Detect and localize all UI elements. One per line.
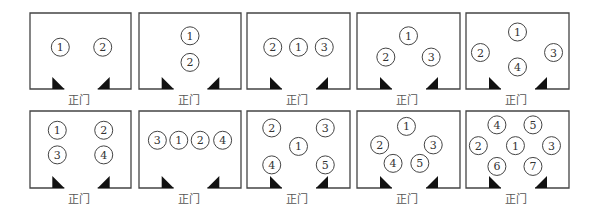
seat-number: 3 xyxy=(322,122,329,135)
seat-3: 3 xyxy=(424,136,442,154)
seat-3: 3 xyxy=(545,44,563,62)
door-left-icon xyxy=(380,176,392,188)
entrance-label: 正门 xyxy=(178,93,200,107)
entrance-label: 正门 xyxy=(286,192,308,206)
seat-5: 5 xyxy=(524,116,542,134)
room-wall xyxy=(30,13,131,89)
door-left-icon xyxy=(270,77,282,89)
seat-number: 4 xyxy=(268,159,275,172)
door-left-icon xyxy=(380,77,392,89)
seating-layout-two-stacked: 正门12 xyxy=(139,13,241,107)
seating-layout-five-x: 正门23145 xyxy=(247,111,350,206)
seat-number: 3 xyxy=(430,139,437,152)
seat-number: 1 xyxy=(175,134,182,147)
seat-3: 3 xyxy=(148,131,166,149)
seat-2: 2 xyxy=(469,137,487,155)
room-wall xyxy=(30,111,131,188)
door-right-icon xyxy=(535,176,547,188)
seat-number: 4 xyxy=(100,149,107,162)
seat-1: 1 xyxy=(509,23,527,41)
seat-2: 2 xyxy=(264,38,282,56)
entrance-label: 正门 xyxy=(396,93,418,107)
seat-3: 3 xyxy=(422,48,440,66)
seat-number: 1 xyxy=(295,140,302,153)
entrance-label: 正门 xyxy=(505,192,527,206)
seat-2: 2 xyxy=(263,119,281,137)
seat-number: 4 xyxy=(390,157,397,170)
seating-layout-four-grid: 正门1234 xyxy=(30,111,131,206)
door-left-icon xyxy=(270,176,282,188)
seat-number: 3 xyxy=(321,41,328,54)
seat-4: 4 xyxy=(384,154,402,172)
seat-1: 1 xyxy=(397,117,415,135)
seat-number: 5 xyxy=(529,119,536,132)
door-left-icon xyxy=(162,176,174,188)
seat-number: 1 xyxy=(57,41,64,54)
door-right-icon xyxy=(98,77,110,89)
seat-number: 5 xyxy=(322,159,329,172)
seat-1: 1 xyxy=(290,38,308,56)
seat-number: 1 xyxy=(187,30,194,43)
door-left-icon xyxy=(52,77,64,89)
room-wall xyxy=(139,13,241,89)
door-right-icon xyxy=(207,77,219,89)
seat-number: 1 xyxy=(512,140,519,153)
seat-4: 4 xyxy=(214,131,232,149)
seat-1: 1 xyxy=(506,137,524,155)
door-right-icon xyxy=(207,176,219,188)
entrance-label: 正门 xyxy=(68,93,90,107)
seat-2: 2 xyxy=(191,131,209,149)
seat-2: 2 xyxy=(181,53,199,71)
entrance-label: 正门 xyxy=(505,93,527,107)
seat-number: 3 xyxy=(428,51,435,64)
door-right-icon xyxy=(426,77,438,89)
seat-1: 1 xyxy=(290,137,308,155)
seat-1: 1 xyxy=(400,27,418,45)
seat-number: 2 xyxy=(376,139,383,152)
seat-number: 6 xyxy=(493,160,500,173)
door-right-icon xyxy=(426,176,438,188)
seat-1: 1 xyxy=(48,121,66,139)
seat-number: 2 xyxy=(382,51,389,64)
seat-4: 4 xyxy=(488,116,506,134)
room-wall xyxy=(139,111,241,188)
door-right-icon xyxy=(535,77,547,89)
seat-3: 3 xyxy=(316,119,334,137)
seat-6: 6 xyxy=(488,157,506,175)
seat-number: 2 xyxy=(268,122,275,135)
seat-number: 3 xyxy=(550,47,557,60)
seat-4: 4 xyxy=(509,58,527,76)
seating-layout-four-row: 正门3124 xyxy=(139,111,241,206)
entrance-label: 正门 xyxy=(396,192,418,206)
seat-number: 2 xyxy=(269,41,276,54)
entrance-label: 正门 xyxy=(286,93,308,107)
seat-number: 3 xyxy=(548,140,555,153)
seat-2: 2 xyxy=(371,136,389,154)
seat-number: 2 xyxy=(477,47,484,60)
seat-1: 1 xyxy=(170,131,188,149)
seat-3: 3 xyxy=(542,137,560,155)
seat-number: 5 xyxy=(416,157,423,170)
seating-layout-seven-hex: 正门4521367 xyxy=(466,111,569,206)
seat-number: 7 xyxy=(529,160,536,173)
seat-number: 1 xyxy=(295,41,302,54)
seat-number: 2 xyxy=(187,56,194,69)
door-right-icon xyxy=(316,77,328,89)
door-left-icon xyxy=(52,176,64,188)
seat-4: 4 xyxy=(263,156,281,174)
seating-layout-three-triangle: 正门123 xyxy=(357,13,460,107)
seat-4: 4 xyxy=(95,146,113,164)
seat-number: 4 xyxy=(514,61,521,74)
seat-number: 1 xyxy=(54,124,61,137)
door-left-icon xyxy=(489,176,501,188)
seat-7: 7 xyxy=(524,157,542,175)
seat-3: 3 xyxy=(315,38,333,56)
seat-number: 2 xyxy=(100,124,107,137)
seat-number: 2 xyxy=(99,41,106,54)
seating-layout-two-side-by-side: 正门12 xyxy=(30,13,131,107)
seat-3: 3 xyxy=(48,146,66,164)
room-wall xyxy=(357,13,460,89)
door-right-icon xyxy=(98,176,110,188)
entrance-label: 正门 xyxy=(68,192,90,206)
seating-diagrams: 正门12正门12正门213正门123正门1234正门1234正门3124正门23… xyxy=(0,0,595,220)
